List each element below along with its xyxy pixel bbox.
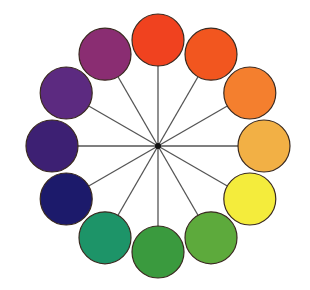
color-swatch-orange-red — [185, 28, 237, 80]
color-swatch-yellow-green — [185, 212, 237, 264]
color-wheel-diagram — [0, 0, 310, 290]
color-swatch-violet — [40, 67, 92, 119]
color-swatch-green — [132, 226, 184, 278]
color-swatch-yellow-orange — [238, 120, 290, 172]
color-swatch-blue-violet — [26, 120, 78, 172]
color-swatch-orange — [224, 67, 276, 119]
color-swatch-blue-green — [79, 212, 131, 264]
color-swatch-blue — [40, 173, 92, 225]
color-swatch-red-violet — [79, 28, 131, 80]
color-swatch-red-orange — [132, 14, 184, 66]
center-hub — [155, 143, 161, 149]
color-swatch-yellow — [224, 173, 276, 225]
